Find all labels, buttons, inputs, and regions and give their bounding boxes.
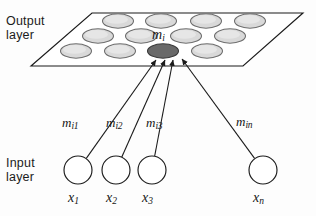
input-variable-label-3-subscript: 3: [148, 196, 153, 206]
map-cell-highlight: [237, 15, 260, 24]
map-cell-highlight: [194, 45, 217, 54]
input-node: [64, 156, 92, 184]
map-cell-highlight: [63, 45, 86, 54]
input-layer-nodes: [64, 156, 277, 184]
weight-label-3: mi3: [146, 115, 162, 131]
weight-label-1: mi1: [62, 115, 78, 131]
connection-arrow: [86, 60, 156, 159]
input-variable-label-2: x2: [106, 190, 117, 206]
input-node: [138, 156, 166, 184]
weight-label-4-subscript: in: [245, 120, 252, 130]
som-diagram: Output layer Input layer mimi1mi2mi3minx…: [0, 0, 316, 216]
winner-neuron-label-subscript: i: [162, 33, 164, 43]
input-variable-label-2-subscript: 2: [112, 196, 117, 206]
map-cell-highlight: [128, 30, 151, 39]
weight-label-2: mi2: [106, 115, 122, 131]
connection-arrow: [182, 59, 255, 159]
map-cell-highlight: [148, 15, 171, 24]
map-cell-highlight: [107, 45, 130, 54]
weight-label-3-subscript: i3: [155, 121, 162, 131]
weight-label-3-base: m: [146, 115, 155, 130]
winner-neuron-label: mi: [152, 27, 165, 43]
map-cell-highlight: [193, 15, 216, 24]
output-layer-label: Output layer: [6, 14, 45, 42]
weight-label-1-subscript: i1: [71, 121, 78, 131]
map-cell-highlight: [173, 30, 196, 39]
weight-label-4: min: [236, 114, 252, 130]
connection-arrows: [86, 59, 255, 159]
winner-map-cell: [148, 44, 179, 58]
input-node: [249, 156, 277, 184]
input-variable-label-4: xn: [253, 190, 264, 206]
weight-label-2-base: m: [106, 115, 115, 130]
map-cell-highlight: [105, 15, 128, 24]
weight-label-1-base: m: [62, 115, 71, 130]
connection-arrow: [155, 60, 173, 156]
map-cell-highlight: [217, 30, 240, 39]
input-variable-label-4-subscript: n: [259, 196, 264, 206]
winner-neuron-label-base: m: [152, 27, 162, 42]
input-variable-label-1: x1: [68, 190, 79, 206]
input-variable-label-3: x3: [142, 190, 153, 206]
input-node: [102, 156, 130, 184]
weight-label-4-base: m: [236, 114, 245, 129]
map-cell-highlight: [85, 30, 108, 39]
connection-arrow: [122, 60, 165, 157]
input-variable-label-1-subscript: 1: [74, 196, 79, 206]
input-layer-label: Input layer: [6, 156, 35, 184]
weight-label-2-subscript: i2: [115, 121, 122, 131]
